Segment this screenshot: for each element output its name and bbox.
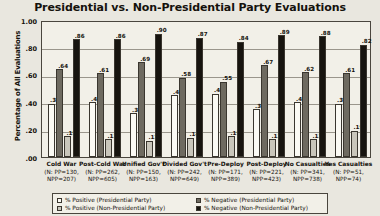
x-axis-sample-size: (N: PP=51,NPP=74) [333,169,364,183]
bar-group: .40.61.13.86 [83,22,124,157]
bar-value-label: .55 [219,75,235,81]
bar [319,36,326,157]
y-axis-tick-label: .20 [11,127,37,135]
legend-label: % Positive (Non-Presidential Party) [65,205,165,211]
y-axis-tick-label: .60 [11,72,37,80]
legend-label: % Negative (Non-Presidential Party) [204,205,308,211]
x-axis-category-name: Post-Deploy [246,161,286,167]
bar [220,82,227,157]
bar [64,136,71,157]
bar [343,73,350,157]
legend-swatch-icon [196,198,201,203]
bar [105,139,112,157]
chart-legend: % Positive (Presidential Party)% Positiv… [52,193,328,214]
bar-value-label: .62 [301,66,317,72]
bar [48,104,55,157]
x-axis-sample-size: (N: PP=221,NPP=423) [249,169,284,183]
bar [294,102,301,157]
legend-item: % Positive (Presidential Party) [57,197,152,203]
bar [269,139,276,157]
x-axis-sample-size: (N: PP=130,NPP=207) [44,169,79,183]
bar [351,131,358,157]
bar [261,65,268,157]
bar-group: .39.64.15.86 [42,22,83,157]
bar [155,34,162,157]
bar [278,35,285,157]
bar [253,109,260,157]
chart-figure: Presidential vs. Non-Presidential Party … [0,0,380,216]
bar-value-label: .61 [342,67,358,73]
y-axis-tick-label: .40 [11,100,37,108]
legend-item: % Negative (Non-Presidential Party) [196,205,308,211]
bar-value-label: .67 [260,59,276,65]
bar [187,138,194,157]
bar-group: .39.61.19.82 [329,22,370,157]
bar-value-label: .69 [137,56,153,62]
legend-item: % Positive (Non-Presidential Party) [57,205,165,211]
bar [130,113,137,157]
bar [196,38,203,157]
bar-value-label: .82 [359,38,375,44]
x-axis-sample-size: (N: PP=341,NPP=738) [290,169,325,183]
x-axis-sample-size: (N: PP=150,NPP=163) [126,169,161,183]
bar [302,72,309,157]
bar [360,45,367,157]
bar [179,78,186,157]
bar [335,104,342,157]
bar [146,141,153,157]
legend-swatch-icon [196,206,201,211]
bar [114,39,121,157]
bar [237,42,244,157]
legend-label: % Negative (Presidential Party) [204,197,294,203]
bar-group: .35.67.13.89 [247,22,288,157]
bar-group: .46.55.15.84 [206,22,247,157]
bar [212,94,219,157]
bar [138,62,145,157]
chart-title: Presidential vs. Non-Presidential Party … [0,1,380,14]
bar-value-label: .61 [96,67,112,73]
x-axis-category-name: Yes Casualties [325,161,373,167]
x-axis-category-name: Unified Gov't [122,161,165,167]
x-axis-sample-size: (N: PP=242,NPP=649) [167,169,202,183]
bar [228,136,235,157]
y-axis-tick-label: .00 [11,155,37,163]
bar-value-label: .58 [178,71,194,77]
bar [171,95,178,157]
x-axis-category-name: Divided Gov't [162,161,207,167]
x-axis-category-name: Cold War [47,161,77,167]
x-axis-sample-size: (N: PP=171,NPP=389) [208,169,243,183]
bar [56,69,63,157]
legend-swatch-icon [57,206,62,211]
x-axis-category-name: Pre-Deploy [207,161,244,167]
x-axis-category-name: No Casualties [285,161,330,167]
plot-area: .39.64.15.86.40.61.13.86.32.69.12.90.45.… [41,21,371,158]
bar-group: .45.58.14.87 [165,22,206,157]
bar-value-label: .64 [55,63,71,69]
bar [97,73,104,157]
bar [73,39,80,157]
bar [89,102,96,157]
legend-swatch-icon [57,198,62,203]
y-axis-tick-label: 1.00 [11,18,37,26]
bar-group: .40.62.13.88 [288,22,329,157]
bar-group: .32.69.12.90 [124,22,165,157]
y-axis-tick-label: .80 [11,45,37,53]
legend-item: % Negative (Presidential Party) [196,197,294,203]
x-axis-sample-size: (N: PP=262,NPP=605) [85,169,120,183]
x-axis-group-label: Yes Casualties(N: PP=51,NPP=74) [325,161,373,184]
legend-label: % Positive (Presidential Party) [65,197,152,203]
bar [310,139,317,157]
